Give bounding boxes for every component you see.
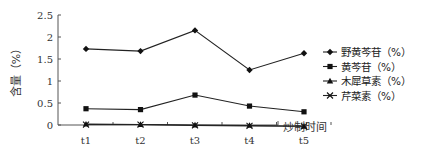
legend-label: 野黄芩苷（%）	[341, 46, 411, 58]
series-2	[83, 92, 306, 114]
x-tick-label: t1	[81, 135, 91, 146]
legend-label: 黄芩苷（%）	[341, 61, 401, 73]
legend-item: 野黄芩苷（%）	[323, 46, 411, 58]
x-tick-label: t3	[190, 135, 200, 146]
series-1	[83, 27, 307, 73]
y-tick-label: 2.5	[37, 10, 53, 21]
legend-item: 木犀草素（%）	[323, 75, 411, 87]
y-axis-title: 含量（%）	[9, 43, 23, 97]
y-tick-label: 0	[47, 120, 53, 131]
x-tick-label: t4	[244, 135, 254, 146]
legend-label: 木犀草素（%）	[341, 75, 411, 87]
line-chart: 00.511.522.5 t1t2t3t4t5 含量（%） 炒制时间 野黄芩苷（…	[0, 0, 430, 154]
x-tick-label: t5	[299, 135, 309, 146]
legend-item: 黄芩苷（%）	[323, 61, 401, 73]
legend: 野黄芩苷（%）黄芩苷（%）木犀草素（%）芹菜素（%）	[323, 46, 411, 102]
y-tick-label: 0.5	[37, 98, 53, 109]
y-tick-label: 2	[47, 32, 53, 43]
y-tick-label: 1	[47, 76, 53, 87]
y-tick-label: 1.5	[37, 54, 53, 65]
plot-area	[83, 27, 307, 129]
x-tick-label: t2	[135, 135, 145, 146]
y-axis: 00.511.522.5	[37, 10, 61, 131]
legend-item: 芹菜素（%）	[323, 90, 401, 102]
legend-label: 芹菜素（%）	[341, 90, 401, 102]
